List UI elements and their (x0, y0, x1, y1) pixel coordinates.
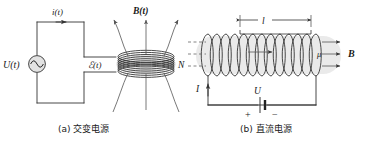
permeability-label: μ (316, 49, 321, 59)
dc-source-label: U (254, 86, 262, 96)
length-dimension (240, 15, 311, 27)
panel-b-group: l (188, 15, 355, 134)
field-label-a: B(t) (132, 6, 148, 17)
field-lines-above-a (114, 20, 178, 56)
turns-label: N (177, 60, 185, 70)
dc-current-label: I (195, 84, 200, 94)
field-lines-below-a (113, 73, 179, 112)
length-label: l (262, 16, 265, 26)
figure-root: U(t) i(t) ℰ(t) B(t) N (a) 交变电源 l (0, 0, 370, 145)
field-label-b: B (347, 48, 355, 59)
caption-panel-b: (b) 直流电源 (240, 123, 292, 134)
dc-circuit-wiring (208, 76, 316, 105)
length-bracket (240, 30, 311, 34)
caption-panel-a: (a) 交变电源 (58, 123, 109, 134)
ac-source-label: U(t) (3, 59, 20, 71)
panel-a-group: U(t) i(t) ℰ(t) B(t) N (a) 交变电源 (3, 6, 185, 134)
ac-source-symbol (29, 56, 46, 73)
battery-plus-label: + (245, 109, 251, 120)
emf-label: ℰ(t) (88, 60, 102, 70)
ac-current-label: i(t) (52, 7, 63, 17)
battery-minus-label: − (272, 109, 278, 120)
physics-figure-svg: U(t) i(t) ℰ(t) B(t) N (a) 交变电源 l (0, 0, 370, 145)
ac-circuit-wiring (37, 22, 116, 103)
